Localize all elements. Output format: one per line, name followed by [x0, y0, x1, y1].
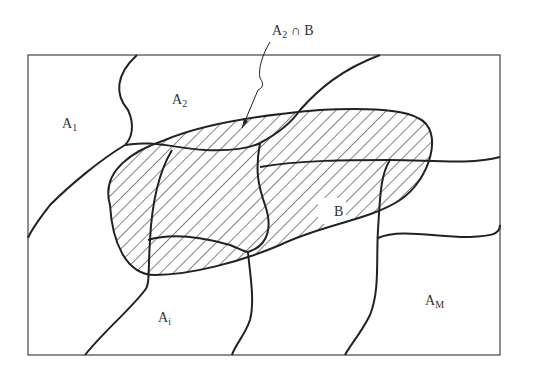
label-b: B: [334, 204, 343, 219]
label-a2-intersect-b: A2 ∩ B: [272, 23, 314, 40]
event-b-region: [100, 100, 440, 280]
label-am: AM: [425, 293, 444, 310]
label-ai: Ai: [158, 310, 171, 327]
partition-diagram: A2 ∩ B A1 A2 Ai AM B: [0, 0, 553, 374]
label-a2: A2: [172, 92, 187, 109]
partition-boundaries: [28, 55, 500, 355]
label-a1: A1: [62, 116, 77, 133]
